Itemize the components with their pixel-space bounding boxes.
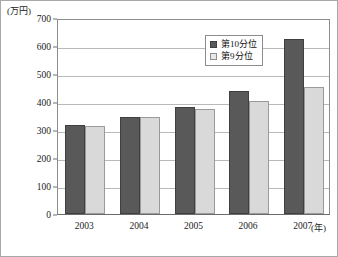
legend-item: 第10分位 [210,38,257,50]
bar-chart-figure: (万円) 0100200300400500600700 200320042005… [0,0,338,257]
bar [175,107,195,214]
bar [284,39,304,214]
legend-item-label: 第10分位 [221,39,257,50]
y-axis-tick-label: 600 [5,42,51,52]
x-axis-tick-label: 2007 [293,221,312,231]
y-axis-tick-label: 0 [5,210,51,220]
x-axis-tick-label: 2003 [75,221,94,231]
y-axis-tick-label: 200 [5,154,51,164]
x-axis-tick-label: 2005 [184,221,203,231]
x-axis-tick-label: 2006 [239,221,258,231]
bar [140,117,160,214]
bar [304,87,324,214]
y-axis-tick-label: 300 [5,126,51,136]
y-axis-tick-label: 700 [5,14,51,24]
bar [229,91,249,214]
light-square-icon [210,53,217,60]
x-axis-unit-label: (年) [311,221,326,234]
bar [195,109,215,214]
bar [65,125,85,214]
legend-item-label: 第9分位 [221,51,253,62]
dark-square-icon [210,41,217,48]
chart-legend: 第10分位 第9分位 [205,35,263,66]
bar [120,117,140,214]
y-axis-tick-label: 500 [5,70,51,80]
y-axis-tick-label: 400 [5,98,51,108]
y-axis-tick-label: 100 [5,182,51,192]
legend-item: 第9分位 [210,50,257,62]
bar [85,126,105,214]
plot-area [57,19,330,215]
bar [249,101,269,214]
x-axis-tick-label: 2004 [129,221,148,231]
